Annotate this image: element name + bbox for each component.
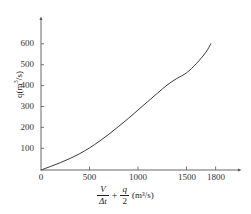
y-axis-unit-close: /s) — [14, 71, 24, 80]
x-axis-title: V Δt + q 2 (m³/s) — [96, 185, 154, 206]
y-tick-label-200: 200 — [12, 123, 34, 132]
x-axis-unit: (m³/s) — [132, 191, 154, 200]
fraction-denominator-2: 2 — [120, 195, 129, 206]
fraction-v-over-delta-t: V Δt — [97, 185, 109, 206]
fraction-denominator-delta-t: Δt — [97, 195, 109, 206]
y-axis-unit-open: (m — [14, 83, 24, 93]
plus-operator: + — [112, 191, 118, 201]
discharge-curve — [41, 44, 211, 170]
chart-figure: 600 500 400 300 200 100 0 500 1000 1500 … — [0, 0, 251, 214]
y-tick-label-100: 100 — [12, 144, 34, 153]
x-tick-label-1500: 1500 — [173, 173, 201, 182]
fraction-q-over-2: q 2 — [120, 185, 129, 206]
x-tick-label-0: 0 — [33, 173, 49, 182]
y-axis-symbol: q — [14, 93, 24, 98]
axes-group — [41, 20, 238, 170]
fraction-numerator-q: q — [120, 185, 129, 195]
y-axis-title: q(m3/s) — [15, 55, 24, 115]
y-axis-unit-exponent: 3 — [12, 80, 19, 83]
y-tick-label-600: 600 — [12, 39, 34, 48]
x-axis-ticks — [90, 167, 216, 171]
x-tick-label-1800: 1800 — [202, 173, 230, 182]
x-tick-label-1000: 1000 — [124, 173, 152, 182]
fraction-numerator-v: V — [98, 185, 108, 195]
x-tick-label-500: 500 — [78, 173, 101, 182]
